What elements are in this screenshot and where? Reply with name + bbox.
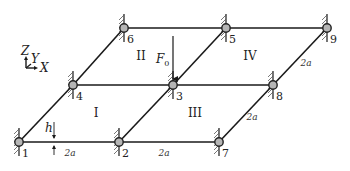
load-label: F0 xyxy=(155,52,169,68)
region-label: III xyxy=(188,106,202,120)
node-label-3: 3 xyxy=(176,90,183,103)
node-label-9: 9 xyxy=(330,33,337,46)
node-8 xyxy=(269,81,277,89)
node-label-5: 5 xyxy=(229,33,236,46)
load-f0: F0 xyxy=(155,36,173,79)
node-3 xyxy=(169,81,177,89)
region-label: IV xyxy=(243,49,257,63)
node-6 xyxy=(120,24,128,32)
node-9 xyxy=(323,24,331,32)
svg-text:Y: Y xyxy=(31,52,40,66)
nodes: 123456789 xyxy=(15,24,337,160)
node-label-2: 2 xyxy=(122,147,129,160)
dimension-label: 2a xyxy=(245,112,257,122)
node-label-6: 6 xyxy=(127,33,134,46)
thickness-marker: h xyxy=(45,121,56,155)
beam-3-5 xyxy=(173,28,226,85)
beam-4-6 xyxy=(73,28,124,85)
node-2 xyxy=(115,138,123,146)
dimension-label: 2a xyxy=(63,148,75,158)
coordinate-axes-icon: ZYX xyxy=(20,44,49,75)
node-label-7: 7 xyxy=(222,147,229,160)
node-7 xyxy=(215,138,223,146)
node-5 xyxy=(222,24,230,32)
region-label: I xyxy=(94,106,99,120)
svg-text:X: X xyxy=(39,61,49,75)
node-1 xyxy=(15,138,23,146)
region-label: II xyxy=(136,49,146,63)
thickness-label: h xyxy=(45,121,53,135)
node-label-8: 8 xyxy=(276,90,283,103)
dimension-label: 2a xyxy=(299,58,311,68)
grillage-diagram: F0 123456789 IIIIIIIV 2a2a2a2a h ZYX xyxy=(0,0,350,171)
svg-text:Z: Z xyxy=(20,44,30,58)
dimension-label: 2a xyxy=(157,148,169,158)
beam-2-3 xyxy=(119,85,173,142)
node-4 xyxy=(69,81,77,89)
node-label-1: 1 xyxy=(22,147,29,160)
beam-8-9 xyxy=(273,28,327,85)
node-label-4: 4 xyxy=(76,90,83,103)
